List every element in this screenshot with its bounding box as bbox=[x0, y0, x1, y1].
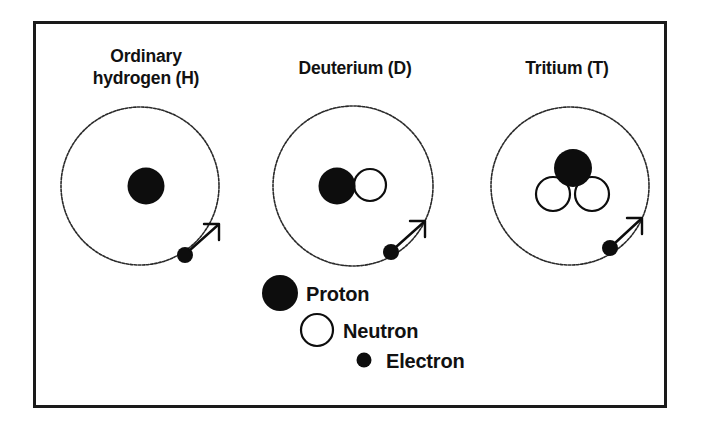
hydrogen-isotopes-figure: Ordinary hydrogen (H) Deuterium (D) T bbox=[0, 0, 710, 435]
proton-icon bbox=[262, 275, 298, 311]
electron-icon bbox=[357, 353, 372, 368]
proton-tritium-1 bbox=[554, 149, 592, 187]
neutron-icon bbox=[301, 314, 333, 346]
proton-hydrogen-1 bbox=[128, 168, 165, 205]
legend-label-proton: Proton bbox=[306, 283, 369, 305]
atom-tritium: Tritium (T) bbox=[491, 58, 649, 265]
neutron-deuterium-1 bbox=[354, 169, 386, 201]
legend-item-proton: Proton bbox=[262, 275, 369, 311]
legend-label-electron: Electron bbox=[386, 350, 464, 372]
atom-deuterium-label: Deuterium (D) bbox=[298, 58, 411, 78]
orbit-direction-arrow-deuterium bbox=[396, 221, 425, 247]
atom-tritium-label: Tritium (T) bbox=[525, 58, 608, 78]
legend: Proton Neutron Electron bbox=[262, 275, 464, 372]
diagram-canvas: Ordinary hydrogen (H) Deuterium (D) T bbox=[0, 0, 710, 435]
legend-label-neutron: Neutron bbox=[343, 320, 418, 342]
legend-item-electron: Electron bbox=[357, 350, 465, 372]
atom-deuterium: Deuterium (D) bbox=[273, 58, 433, 266]
legend-item-neutron: Neutron bbox=[301, 314, 418, 346]
proton-deuterium-1 bbox=[319, 168, 356, 205]
orbit-direction-arrow-hydrogen bbox=[190, 224, 219, 250]
atom-hydrogen-label-line-2: hydrogen (H) bbox=[93, 68, 199, 88]
atom-hydrogen-label-line-1: Ordinary bbox=[110, 46, 182, 66]
atom-hydrogen: Ordinary hydrogen (H) bbox=[61, 46, 219, 265]
